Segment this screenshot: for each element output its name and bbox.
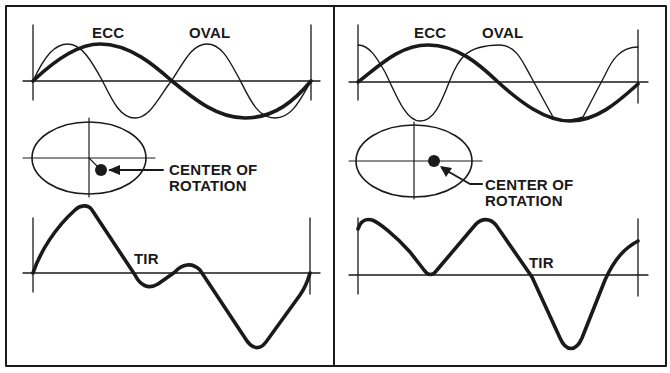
- diagram-stage: ECC OVAL CENTER OF ROTATION TIR ECC OVAL…: [0, 0, 670, 373]
- left-ellipse-group: [23, 118, 163, 197]
- left-center-label-line2: ROTATION: [169, 177, 247, 194]
- left-center-dot: [95, 164, 107, 176]
- right-ecc-curve: [358, 45, 638, 121]
- right-tir-curve: [358, 219, 638, 348]
- right-center-label-line2: ROTATION: [485, 192, 563, 209]
- right-center-dot: [428, 155, 440, 167]
- left-oval-label: OVAL: [189, 24, 230, 41]
- left-tir-curve: [33, 206, 310, 348]
- right-center-label-line1: CENTER OF: [485, 176, 573, 193]
- left-waveform-axes: [23, 25, 320, 100]
- left-tir-axes: [23, 218, 320, 294]
- left-center-label-line1: CENTER OF: [169, 161, 257, 178]
- right-ecc-label: ECC: [414, 24, 446, 41]
- left-arrow-head: [108, 165, 120, 175]
- right-ellipse-group: [349, 122, 482, 199]
- left-tir-label: TIR: [134, 250, 159, 267]
- right-arrow-head: [440, 166, 452, 177]
- right-tir-label: TIR: [529, 254, 554, 271]
- left-ecc-label: ECC: [92, 24, 124, 41]
- right-oval-label: OVAL: [482, 24, 523, 41]
